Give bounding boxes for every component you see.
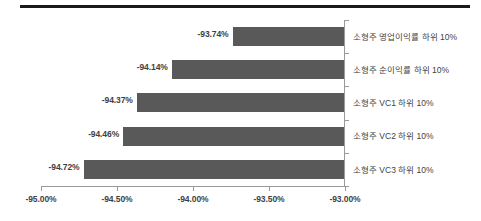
category-label-1: 소형주 순이익률 하위 10% [353, 65, 449, 75]
category-tick [345, 53, 349, 54]
bar-row: -94.72% [41, 153, 345, 186]
bar-2[interactable] [137, 93, 345, 112]
category-label-0: 소형주 영업이익률 하위 10% [353, 32, 457, 42]
x-tick-label-0: -95.00% [26, 194, 57, 204]
top-divider-rule [20, 5, 470, 8]
bar-row: -94.14% [41, 53, 345, 86]
value-tick [41, 187, 42, 191]
bar-value-label-4: -94.72% [49, 162, 80, 172]
value-tick [345, 187, 346, 191]
plot-area: -93.74% -94.14% -94.37% -94.46% -94.72% [41, 20, 345, 186]
category-label-2: 소형주 VC1 하위 10% [353, 98, 434, 108]
value-tick [269, 187, 270, 191]
bar-1[interactable] [172, 60, 345, 79]
bar-value-label-2: -94.37% [102, 95, 133, 105]
bar-row: -94.46% [41, 120, 345, 153]
category-tick [345, 153, 349, 154]
category-tick [345, 120, 349, 121]
category-tick [345, 20, 349, 21]
bar-chart-figure: -93.74% -94.14% -94.37% -94.46% -94.72% [0, 0, 481, 221]
x-tick-label-4: -93.00% [330, 194, 361, 204]
bar-value-label-0: -93.74% [198, 29, 229, 39]
category-tick [345, 86, 349, 87]
category-label-3: 소형주 VC2 하위 10% [353, 131, 434, 141]
value-tick [193, 187, 194, 191]
bar-0[interactable] [233, 27, 345, 46]
bar-value-label-3: -94.46% [88, 129, 119, 139]
bar-row: -93.74% [41, 20, 345, 53]
bar-3[interactable] [123, 127, 345, 146]
bar-value-label-1: -94.14% [137, 62, 168, 72]
bar-row: -94.37% [41, 86, 345, 119]
x-tick-label-1: -94.50% [102, 194, 133, 204]
category-axis-line [344, 20, 345, 187]
category-label-4: 소형주 VC3 하위 10% [353, 165, 434, 175]
value-tick [117, 187, 118, 191]
bar-4[interactable] [84, 160, 345, 179]
x-tick-label-3: -93.50% [254, 194, 285, 204]
x-tick-label-2: -94.00% [178, 194, 209, 204]
